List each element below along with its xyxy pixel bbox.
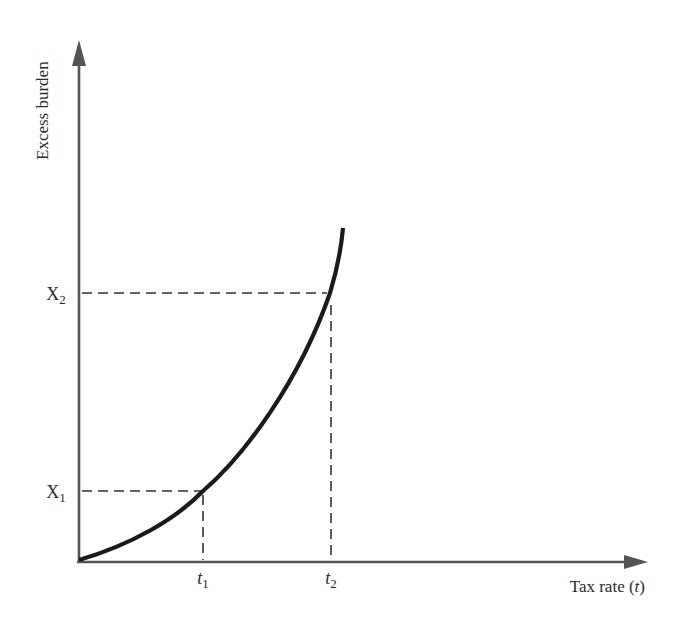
x-tick-t1: t1 (197, 568, 209, 591)
reference-lines (82, 293, 331, 560)
y-tick-x2: X2 (46, 284, 66, 307)
x-axis-label: Tax rate (t) (570, 577, 645, 596)
excess-burden-curve (79, 228, 343, 560)
x-tick-t2: t2 (325, 568, 337, 591)
y-tick-x1: X1 (46, 482, 66, 505)
y-axis-label: Excess burden (33, 61, 52, 160)
chart-canvas: Excess burden X1 X2 t1 t2 Tax rate (t) (0, 0, 680, 618)
x-axis-arrow-icon (624, 555, 648, 569)
chart-svg: Excess burden X1 X2 t1 t2 Tax rate (t) (0, 0, 680, 618)
x-axis (77, 555, 648, 569)
y-axis-arrow-icon (72, 40, 86, 66)
y-axis (72, 40, 86, 562)
